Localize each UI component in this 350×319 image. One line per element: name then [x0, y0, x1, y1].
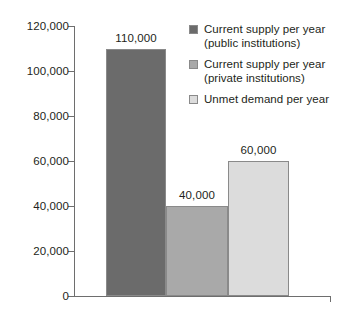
x-axis-line [74, 296, 331, 297]
x-axis-end-tick [330, 296, 331, 302]
legend-item: Current supply per year(public instituti… [189, 22, 347, 50]
legend-item: Unmet demand per year [189, 92, 347, 106]
y-axis-tick-label: 80,000 [33, 110, 69, 122]
y-axis-tick-label: 40,000 [33, 200, 69, 212]
y-axis-tick-label: 120,000 [27, 20, 69, 32]
legend-item-label-line1: Unmet demand per year [204, 93, 329, 105]
legend-item-label: Unmet demand per year [204, 92, 329, 106]
bar [106, 49, 166, 297]
legend-item-label-line1: Current supply per year [204, 58, 325, 70]
bar-value-label: 60,000 [241, 144, 277, 156]
legend-swatch-public-supply [189, 25, 198, 34]
legend-swatch-private-supply [189, 60, 198, 69]
y-axis-tick-label: 20,000 [33, 245, 69, 257]
legend-swatch-unmet-demand [189, 95, 198, 104]
bar [166, 206, 228, 296]
y-axis-tick-label: 100,000 [27, 65, 69, 77]
y-axis-line [74, 26, 75, 297]
bar-chart: 020,00040,00060,00080,000100,000120,000 … [0, 0, 350, 319]
chart-legend: Current supply per year(public instituti… [189, 22, 347, 113]
y-axis-tick-label: 60,000 [33, 155, 69, 167]
legend-item: Current supply per year(private institut… [189, 57, 347, 85]
legend-item-label-line2: (public institutions) [204, 36, 325, 50]
bar-value-label: 40,000 [179, 189, 215, 201]
legend-item-label: Current supply per year(private institut… [204, 57, 325, 85]
legend-item-label-line1: Current supply per year [204, 23, 325, 35]
bar-value-label: 110,000 [115, 32, 156, 44]
legend-item-label: Current supply per year(public instituti… [204, 22, 325, 50]
legend-item-label-line2: (private institutions) [204, 71, 325, 85]
y-axis-tick-label: 0 [63, 290, 70, 302]
bar [228, 161, 289, 296]
